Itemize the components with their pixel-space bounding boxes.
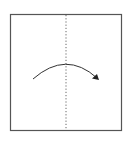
fold-diagram: [0, 0, 131, 142]
